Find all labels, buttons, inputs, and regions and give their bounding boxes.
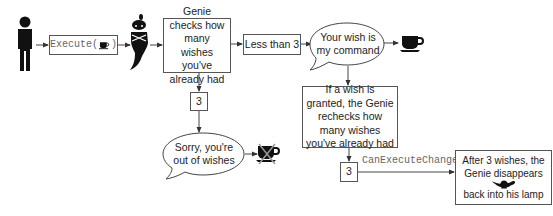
your-wish-text: Your wish is my command bbox=[316, 27, 380, 61]
count-3-box-left: 3 bbox=[190, 92, 208, 111]
sorry-text: Sorry, you're out of wishes bbox=[168, 138, 240, 170]
after-3-wishes-box: After 3 wishes, the Genie disappears bac… bbox=[455, 150, 552, 205]
recheck-box: If a wish is granted, the Genie rechecks… bbox=[302, 86, 398, 148]
after-3-bottom-text: back into his lamp bbox=[463, 189, 543, 202]
less-than-3-box: Less than 3 bbox=[243, 34, 301, 55]
crossed-coffee-cup-icon bbox=[256, 143, 281, 165]
person-icon bbox=[15, 16, 35, 72]
genie-icon bbox=[127, 13, 151, 71]
coffee-cup-icon bbox=[99, 41, 110, 50]
genie-checks-box: Genie checks how many wishes you've alre… bbox=[163, 18, 231, 73]
execute-command-box: Execute( ) bbox=[49, 35, 118, 55]
count-3-box-right: 3 bbox=[340, 162, 358, 182]
coffee-cup-icon bbox=[400, 35, 425, 53]
execute-prefix: Execute( bbox=[50, 38, 98, 52]
execute-suffix: ) bbox=[111, 38, 117, 52]
after-3-top-text: After 3 wishes, the Genie disappears bbox=[458, 155, 549, 180]
can-execute-changed-label: CanExecuteChanged bbox=[362, 155, 464, 166]
magic-lamp-icon bbox=[484, 180, 524, 189]
